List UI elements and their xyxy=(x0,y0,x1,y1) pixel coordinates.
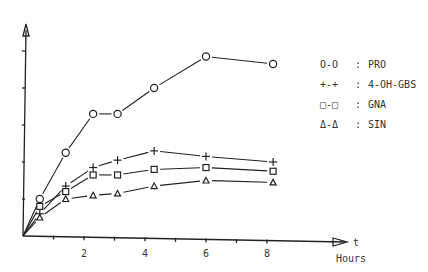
x-tick-label: 2 xyxy=(81,248,87,259)
legend-symbol: □-□ xyxy=(320,99,338,110)
square-marker-icon xyxy=(270,168,276,174)
legend-label: 4-OH-GBS xyxy=(368,79,416,90)
series-sin xyxy=(23,178,276,237)
legend-separator: : xyxy=(355,59,361,70)
series-segment xyxy=(160,181,200,185)
x-axis-symbol: t xyxy=(353,237,359,248)
legend-separator: : xyxy=(355,79,361,90)
square-marker-icon xyxy=(115,172,121,178)
square-marker-icon xyxy=(37,203,43,209)
x-tick-label: 8 xyxy=(264,248,270,259)
series-segment xyxy=(123,187,148,192)
square-marker-icon xyxy=(203,165,209,171)
y-axis-line xyxy=(23,30,26,236)
line-chart: 2468tHours O-O:PRO+-+:4-OH-GBS□-□:GNAΔ-Δ… xyxy=(0,0,428,272)
circle-marker-icon xyxy=(151,84,158,91)
square-marker-icon xyxy=(63,189,69,195)
series-segment xyxy=(212,168,267,171)
legend-separator: : xyxy=(355,99,361,110)
series-segment xyxy=(99,162,112,166)
series-segment xyxy=(71,178,88,188)
triangle-marker-icon xyxy=(203,178,209,184)
series-segment xyxy=(160,168,200,169)
series-segment xyxy=(71,171,88,183)
series-segment xyxy=(159,60,201,85)
legend: O-O:PRO+-+:4-OH-GBS□-□:GNAΔ-Δ:SIN xyxy=(320,59,416,130)
series-segment xyxy=(160,152,200,156)
series-segment xyxy=(123,170,148,174)
axes: 2468tHours xyxy=(22,24,366,264)
circle-marker-icon xyxy=(62,149,69,156)
legend-item-sin: Δ-Δ:SIN xyxy=(320,119,386,130)
series-segment xyxy=(72,196,88,198)
legend-item-pro: O-O:PRO xyxy=(320,59,386,70)
legend-item-gna: □-□:GNA xyxy=(320,99,386,110)
legend-label: PRO xyxy=(368,59,386,70)
x-axis-line xyxy=(23,236,345,242)
series-segment xyxy=(43,158,63,194)
x-tick-label: 6 xyxy=(203,248,209,259)
series-gna xyxy=(23,165,276,236)
series-segment xyxy=(212,181,267,183)
series-segment xyxy=(45,195,61,204)
legend-symbol: +-+ xyxy=(320,79,338,90)
circle-marker-icon xyxy=(114,110,121,117)
series-segment xyxy=(212,57,267,63)
circle-marker-icon xyxy=(202,53,209,60)
series-pro xyxy=(23,53,277,236)
legend-symbol: Δ-Δ xyxy=(320,119,338,130)
x-tick-label: 4 xyxy=(142,248,148,259)
legend-separator: : xyxy=(355,119,361,130)
circle-marker-icon xyxy=(90,110,97,117)
x-axis-label: Hours xyxy=(336,253,366,264)
triangle-marker-icon xyxy=(37,215,43,221)
plot-area xyxy=(23,53,277,236)
series-segment xyxy=(212,157,267,162)
square-marker-icon xyxy=(151,166,157,172)
triangle-marker-icon xyxy=(151,183,157,189)
series-segment xyxy=(44,190,62,209)
legend-item-4-oh-gbs: +-+:4-OH-GBS xyxy=(320,79,416,90)
series-segment xyxy=(99,194,111,195)
circle-marker-icon xyxy=(270,60,277,67)
circle-marker-icon xyxy=(36,195,43,202)
triangle-marker-icon xyxy=(63,196,69,202)
series-segment xyxy=(122,91,149,110)
series-segment xyxy=(69,119,90,148)
series-segment xyxy=(45,202,61,214)
series-segment xyxy=(123,152,148,158)
square-marker-icon xyxy=(90,172,96,178)
legend-label: GNA xyxy=(368,99,386,110)
triangle-marker-icon xyxy=(270,179,276,185)
triangle-marker-icon xyxy=(90,192,96,198)
legend-label: SIN xyxy=(368,119,386,130)
legend-symbol: O-O xyxy=(320,59,338,70)
triangle-marker-icon xyxy=(115,190,121,196)
